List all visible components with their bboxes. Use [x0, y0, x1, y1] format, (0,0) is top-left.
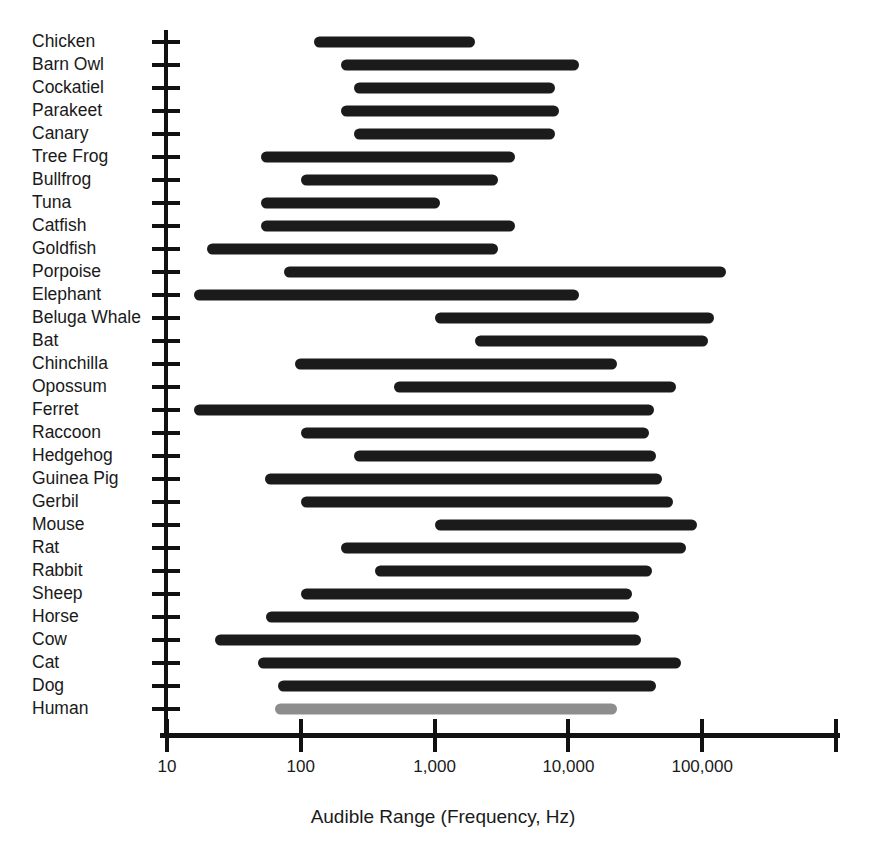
range-bar [341, 60, 579, 71]
range-bar [261, 152, 516, 163]
y-axis-label: Horse [32, 608, 79, 626]
y-axis-tick [152, 178, 180, 182]
y-axis-tick [152, 247, 180, 251]
y-axis-label: Beluga Whale [32, 309, 141, 327]
y-axis-tick [152, 684, 180, 688]
y-axis-tick [152, 201, 180, 205]
y-axis-label: Ferret [32, 401, 79, 419]
range-bar [341, 543, 686, 554]
range-bar [301, 428, 649, 439]
y-axis-label: Bat [32, 332, 58, 350]
y-axis-label: Elephant [32, 286, 101, 304]
range-bar [435, 520, 697, 531]
y-axis-tick [152, 63, 180, 67]
range-bar [314, 37, 475, 48]
y-axis-tick [152, 546, 180, 550]
range-bar [394, 382, 676, 393]
y-axis-tick [152, 408, 180, 412]
y-axis-label: Rabbit [32, 562, 83, 580]
range-bar [261, 221, 516, 232]
y-axis-tick [152, 707, 180, 711]
x-axis-tick-label: 10 [158, 757, 177, 777]
x-axis-tick [433, 719, 437, 752]
range-bar [301, 175, 499, 186]
range-bar [301, 589, 632, 600]
y-axis-tick [152, 316, 180, 320]
y-axis-label: Chicken [32, 33, 95, 51]
y-axis-label: Chinchilla [32, 355, 108, 373]
x-axis-tick-label: 100,000 [671, 757, 732, 777]
y-axis-tick [152, 477, 180, 481]
y-axis-label: Cow [32, 631, 67, 649]
audible-range-chart: ChickenBarn OwlCockatielParakeetCanaryTr… [0, 0, 886, 864]
range-bar [194, 290, 579, 301]
y-axis-label: Rat [32, 539, 59, 557]
y-axis-tick [152, 523, 180, 527]
y-axis-tick [152, 385, 180, 389]
y-axis-tick [152, 362, 180, 366]
y-axis-tick [152, 270, 180, 274]
y-axis-label: Canary [32, 125, 88, 143]
range-bar [207, 244, 498, 255]
y-axis-label: Cockatiel [32, 79, 104, 97]
y-axis-label: Porpoise [32, 263, 101, 281]
y-axis-label: Sheep [32, 585, 83, 603]
range-bar [258, 658, 681, 669]
y-axis-label: Mouse [32, 516, 85, 534]
y-axis-tick [152, 592, 180, 596]
y-axis-tick [152, 224, 180, 228]
range-bar [261, 198, 441, 209]
y-axis-tick [152, 431, 180, 435]
plot-area: ChickenBarn OwlCockatielParakeetCanaryTr… [0, 0, 886, 864]
y-axis-tick [152, 40, 180, 44]
y-axis-label: Bullfrog [32, 171, 91, 189]
y-axis-label: Guinea Pig [32, 470, 119, 488]
range-bar [375, 566, 652, 577]
y-axis-tick [152, 132, 180, 136]
y-axis-label: Barn Owl [32, 56, 104, 74]
y-axis-label: Tuna [32, 194, 71, 212]
y-axis-label: Catfish [32, 217, 86, 235]
range-bar [278, 681, 656, 692]
y-axis-tick [152, 454, 180, 458]
y-axis-label: Goldfish [32, 240, 96, 258]
range-bar [284, 267, 726, 278]
range-bar [275, 704, 617, 715]
y-axis-label: Human [32, 700, 88, 718]
y-axis-tick [152, 500, 180, 504]
y-axis-label: Tree Frog [32, 148, 108, 166]
range-bar [475, 336, 708, 347]
y-axis-tick [152, 109, 180, 113]
y-axis-tick [152, 339, 180, 343]
x-axis-tick [299, 719, 303, 752]
range-bar [341, 106, 559, 117]
range-bar [354, 83, 555, 94]
range-bar [194, 405, 654, 416]
x-axis-tick [700, 719, 704, 752]
y-axis-tick [152, 638, 180, 642]
range-bar [435, 313, 715, 324]
range-bar [301, 497, 673, 508]
x-axis-tick-label: 1,000 [413, 757, 456, 777]
y-axis-label: Raccoon [32, 424, 101, 442]
y-axis-label: Cat [32, 654, 59, 672]
y-axis-tick [152, 661, 180, 665]
y-axis-tick [152, 293, 180, 297]
range-bar [354, 129, 555, 140]
x-axis-tick-label: 10,000 [542, 757, 594, 777]
range-bar [295, 359, 617, 370]
x-axis-spine [160, 733, 840, 738]
y-axis-label: Gerbil [32, 493, 79, 511]
range-bar [265, 474, 662, 485]
y-axis-tick [152, 569, 180, 573]
x-axis-title: Audible Range (Frequency, Hz) [0, 806, 886, 828]
range-bar [354, 451, 656, 462]
y-axis-tick [152, 155, 180, 159]
y-axis-tick [152, 615, 180, 619]
range-bar [215, 635, 641, 646]
x-axis-tick-label: 100 [287, 757, 315, 777]
x-axis-tick [566, 719, 570, 752]
y-axis-tick [152, 86, 180, 90]
x-axis-tick [834, 719, 838, 752]
y-axis-label: Hedgehog [32, 447, 113, 465]
